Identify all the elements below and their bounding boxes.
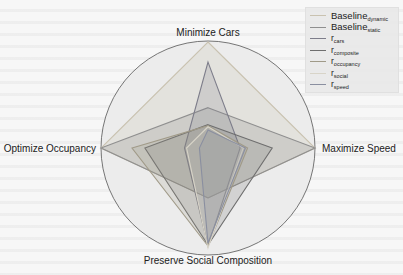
legend-item-r-composite: rcomposite: [310, 45, 398, 57]
legend-item-r-occupancy: roccupancy: [310, 56, 398, 68]
legend-line-swatch-icon: [310, 61, 326, 62]
legend-line-swatch-icon: [310, 15, 326, 16]
axis-label-minimize-cars: Minimize Cars: [176, 27, 239, 38]
legend-label: rcomposite: [331, 45, 359, 56]
axis-label-preserve-social-composition: Preserve Social Composition: [144, 255, 272, 266]
legend-item-r-social: rsocial: [310, 68, 398, 80]
legend-label: rcars: [331, 33, 344, 44]
chart-legend: BaselinedynamicBaselinestaticrcarsrcompo…: [305, 7, 399, 93]
legend-label: Baselinedynamic: [331, 10, 388, 22]
axis-label-maximize-speed: Maximize Speed: [322, 143, 396, 154]
legend-line-swatch-icon: [310, 50, 326, 51]
legend-line-swatch-icon: [310, 73, 326, 74]
legend-line-swatch-icon: [310, 27, 326, 28]
legend-line-swatch-icon: [310, 38, 326, 39]
legend-label: roccupancy: [331, 56, 360, 67]
legend-label: Baselinestatic: [331, 21, 380, 33]
legend-item-r-speed: rspeed: [310, 79, 398, 91]
legend-item-baseline-static: Baselinestatic: [310, 22, 398, 34]
legend-item-baseline-dynamic: Baselinedynamic: [310, 10, 398, 22]
legend-line-swatch-icon: [310, 84, 326, 85]
legend-item-r-cars: rcars: [310, 33, 398, 45]
axis-label-optimize-occupancy: Optimize Occupancy: [4, 143, 96, 154]
legend-label: rsocial: [331, 68, 348, 79]
legend-label: rspeed: [331, 79, 349, 90]
